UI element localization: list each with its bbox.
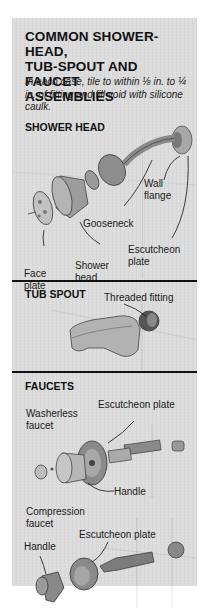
label-gooseneck: Gooseneck [83, 218, 134, 230]
section-heading-tub-spout: TUB SPOUT [25, 288, 86, 300]
section-heading-faucets: FAUCETS [25, 380, 74, 392]
section-divider [12, 280, 197, 282]
label-line: Face [24, 268, 46, 280]
label-escutcheon-plate-washerless: Escutcheon plate [98, 399, 175, 411]
section-divider [12, 371, 197, 373]
label-compression-faucet: Compression faucet [26, 506, 85, 529]
diagram-subtitle: In each case, tile to within ⅛ in. to ¼ … [25, 76, 193, 114]
label-line: Washerless [26, 408, 78, 420]
tub-spout-illustration [12, 300, 197, 370]
label-line: flange [144, 190, 171, 202]
label-line: plate [128, 256, 180, 268]
label-line: Escutcheon [128, 244, 180, 256]
compression-faucet-illustration [12, 538, 197, 609]
label-line: Shower [75, 260, 109, 272]
washerless-faucet-illustration [12, 423, 197, 498]
diagram-panel: COMMON SHOWER-HEAD, TUB-SPOUT AND FAUCET… [12, 18, 197, 586]
label-line: faucet [26, 518, 85, 530]
label-line: Wall [144, 178, 171, 190]
label-handle-washerless: Handle [114, 486, 146, 498]
label-line: Compression [26, 506, 85, 518]
label-escutcheon-plate: Escutcheon plate [128, 244, 180, 267]
title-line-1: COMMON SHOWER-HEAD, [25, 29, 195, 59]
label-wall-flange: Wall flange [144, 178, 171, 201]
